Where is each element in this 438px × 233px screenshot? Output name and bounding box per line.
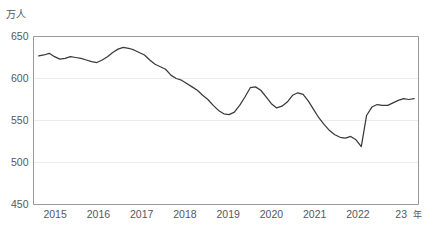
- gridlines: [34, 79, 419, 163]
- y-tick-label: 500: [11, 156, 29, 168]
- y-axis-tick-labels: 450500550600650: [11, 30, 29, 210]
- x-tick-label: 2021: [303, 208, 327, 220]
- line-chart: 450500550600650 201520162017201820192020…: [0, 0, 438, 233]
- x-tick-label: 2015: [43, 208, 67, 220]
- data-series-line: [39, 47, 414, 146]
- y-tick-label: 450: [11, 198, 29, 210]
- x-tick-label: 2020: [260, 208, 284, 220]
- x-tick-label: 2022: [346, 208, 370, 220]
- x-tick-label: 23: [395, 208, 407, 220]
- x-tick-label: 2019: [216, 208, 240, 220]
- x-axis-tick-labels: 2015201620172018201920202021202223: [43, 208, 407, 220]
- y-axis-unit-label: 万人: [6, 9, 26, 20]
- x-tick-label: 2016: [87, 208, 111, 220]
- x-tick-label: 2017: [130, 208, 154, 220]
- y-tick-label: 550: [11, 114, 29, 126]
- x-axis-unit-label: 年: [413, 209, 422, 220]
- y-tick-label: 650: [11, 30, 29, 42]
- chart-container: 450500550600650 201520162017201820192020…: [0, 0, 438, 233]
- y-tick-label: 600: [11, 72, 29, 84]
- x-tick-label: 2018: [173, 208, 197, 220]
